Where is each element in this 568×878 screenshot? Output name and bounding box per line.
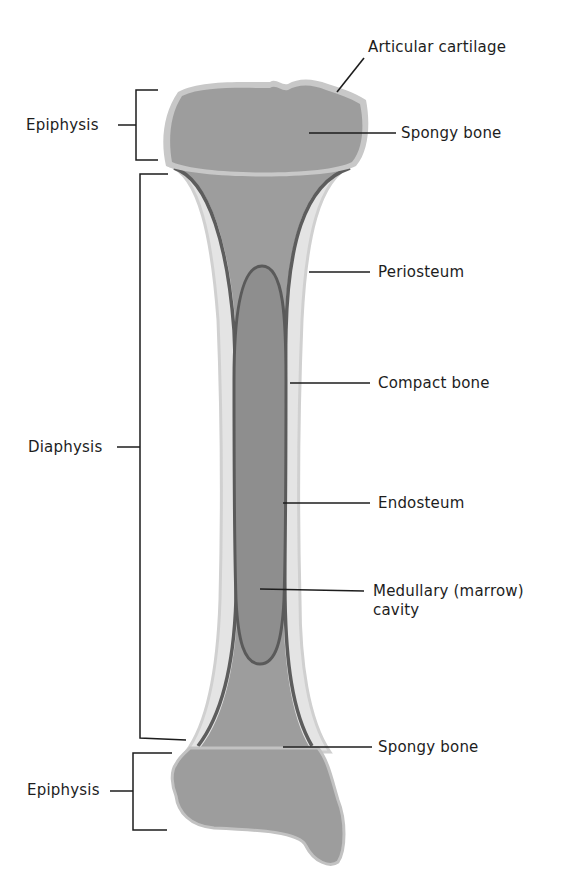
label-medullary-cavity-line2: cavity — [373, 601, 419, 620]
label-compact-bone: Compact bone — [378, 374, 490, 393]
label-periosteum: Periosteum — [378, 263, 464, 282]
label-articular-cartilage: Articular cartilage — [368, 38, 506, 57]
label-spongy-bone-top: Spongy bone — [401, 124, 502, 143]
bracket-epiphysis-top — [118, 90, 158, 160]
spongy-bone-bottom-region — [172, 748, 344, 864]
leader-articular-cartilage — [337, 58, 364, 92]
label-endosteum: Endosteum — [378, 494, 465, 513]
label-spongy-bone-bottom: Spongy bone — [378, 738, 479, 757]
medullary-cavity-shape — [234, 266, 286, 664]
bracket-diaphysis — [117, 174, 186, 740]
bracket-epiphysis-bottom — [110, 753, 172, 830]
label-epiphysis-top: Epiphysis — [26, 116, 99, 135]
label-medullary-cavity: Medullary (marrow) — [373, 582, 524, 601]
label-diaphysis: Diaphysis — [28, 438, 102, 457]
spongy-bone-top-region — [170, 86, 362, 173]
label-epiphysis-bottom: Epiphysis — [27, 781, 100, 800]
long-bone-diagram: Epiphysis Diaphysis Epiphysis Articular … — [0, 0, 568, 878]
